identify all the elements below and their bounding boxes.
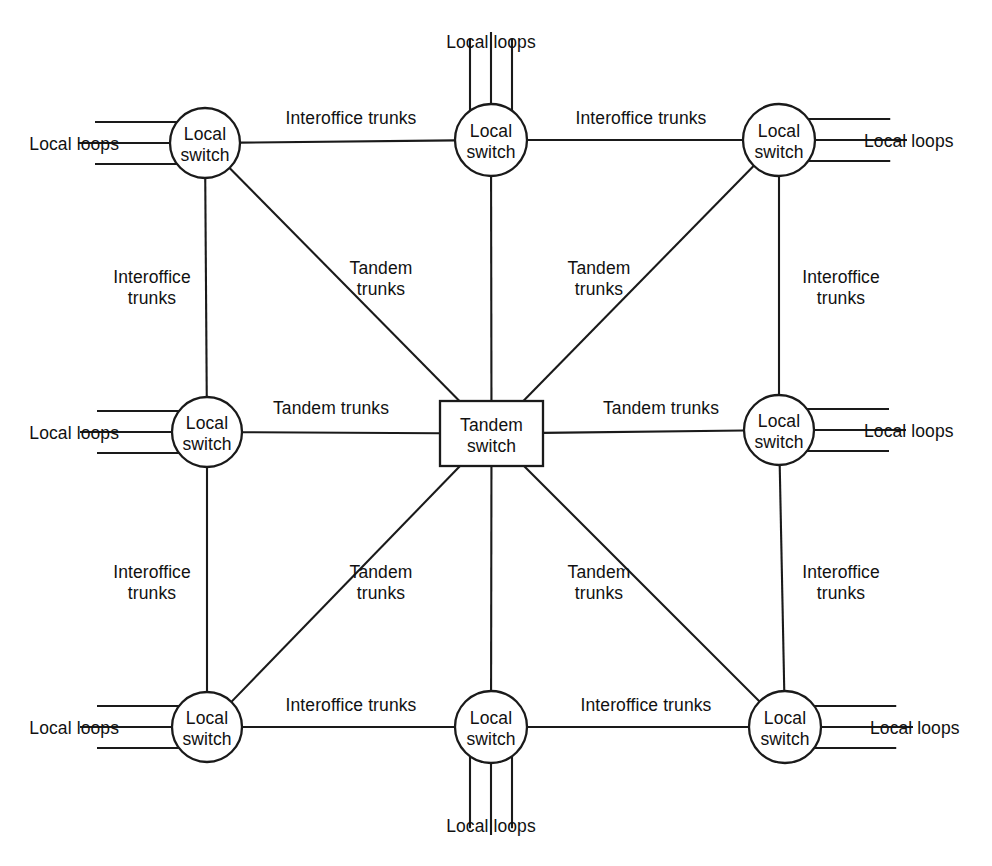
tandem-switch-node[interactable]: Tandemswitch: [440, 401, 543, 466]
local-loops-label: Local loops: [446, 816, 536, 836]
trunk-line-tandem: [230, 168, 460, 401]
network-diagram-svg: LocalswitchLocalswitchLocalswitchLocalsw…: [0, 0, 992, 866]
local-switch-label: Localswitch: [180, 124, 229, 165]
trunk-label-tandem: Tandem trunks: [603, 398, 719, 418]
trunk-label-tandem: Tandemtrunks: [568, 562, 631, 603]
trunk-label-interoffice: Interofficetrunks: [113, 562, 191, 603]
local-switch-label: Localswitch: [466, 708, 515, 749]
local-switch-label: Localswitch: [754, 121, 803, 162]
local-switch-node[interactable]: Localswitch: [172, 397, 242, 467]
trunk-line-tandem: [231, 466, 460, 702]
local-switch-label: Localswitch: [754, 411, 803, 452]
trunk-label-interoffice: Interoffice trunks: [286, 108, 417, 128]
trunk-line-tandem: [242, 432, 440, 433]
local-loops-label: Local loops: [29, 134, 119, 154]
trunk-line-tandem: [543, 430, 744, 432]
local-switch-label: Localswitch: [466, 121, 515, 162]
local-loops-label: Local loops: [864, 421, 954, 441]
local-switch-node[interactable]: Localswitch: [455, 691, 527, 763]
local-loops-label: Local loops: [864, 131, 954, 151]
trunk-label-tandem: Tandemtrunks: [568, 258, 631, 299]
local-switch-node[interactable]: Localswitch: [744, 395, 814, 465]
local-switch-node[interactable]: Localswitch: [743, 104, 815, 176]
trunk-line-tandem: [524, 466, 760, 702]
local-loops-label: Local loops: [870, 718, 960, 738]
trunk-label-interoffice: Interofficetrunks: [802, 267, 880, 308]
trunk-label-interoffice: Interofficetrunks: [802, 562, 880, 603]
tandem-switch-label: Tandemswitch: [460, 415, 523, 456]
local-switch-label: Localswitch: [760, 708, 809, 749]
trunk-label-interoffice: Interoffice trunks: [576, 108, 707, 128]
trunk-line-interoffice: [780, 465, 785, 691]
network-diagram-canvas: LocalswitchLocalswitchLocalswitchLocalsw…: [0, 0, 992, 866]
local-switch-node[interactable]: Localswitch: [455, 104, 527, 176]
trunk-label-interoffice: Interofficetrunks: [113, 267, 191, 308]
local-loops-label: Local loops: [29, 718, 119, 738]
local-loops-label: Local loops: [446, 32, 536, 52]
local-switch-node[interactable]: Localswitch: [170, 108, 240, 178]
local-switch-node[interactable]: Localswitch: [172, 692, 242, 762]
trunk-line-interoffice: [240, 140, 455, 142]
trunk-label-tandem: Tandemtrunks: [350, 258, 413, 299]
local-switch-label: Localswitch: [182, 708, 231, 749]
local-switch-label: Localswitch: [182, 413, 231, 454]
trunk-label-interoffice: Interoffice trunks: [286, 695, 417, 715]
trunk-label-tandem: Tandem trunks: [273, 398, 389, 418]
trunk-line-tandem: [523, 166, 753, 401]
trunk-label-tandem: Tandemtrunks: [350, 562, 413, 603]
trunk-line-interoffice: [205, 178, 207, 397]
local-loops-label: Local loops: [29, 423, 119, 443]
local-switch-node[interactable]: Localswitch: [749, 691, 821, 763]
trunk-label-interoffice: Interoffice trunks: [581, 695, 712, 715]
